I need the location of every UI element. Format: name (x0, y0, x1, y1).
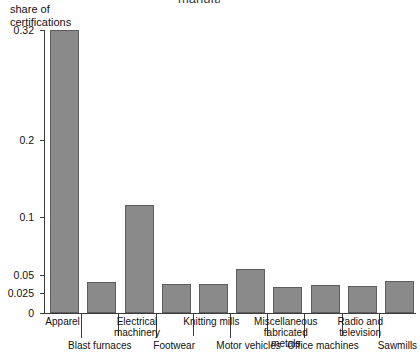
x-axis-label: Electrical machinery (102, 316, 173, 338)
bar (385, 281, 414, 313)
cropped-title-text: manufacturing (178, 0, 220, 6)
x-axis-label: Motor vehicles (208, 340, 290, 351)
x-axis-label: Apparel (27, 316, 98, 327)
cropped-title-artifact: manufacturing (178, 0, 220, 7)
y-tick-label: 0.2 (19, 134, 34, 146)
bar (199, 284, 228, 313)
y-axis-line (44, 30, 45, 314)
x-axis-label-group: ApparelElectrical machineryKnitting mill… (44, 314, 416, 358)
bar (125, 205, 154, 313)
x-axis-label: Blast furnaces (59, 340, 141, 351)
x-axis-label: Footwear (133, 340, 215, 351)
bar (50, 30, 79, 313)
bar-chart-figure: manufacturing share of certifications 00… (0, 0, 420, 358)
bar (348, 286, 377, 313)
bar (87, 282, 116, 313)
x-axis-label: Office machines (282, 340, 364, 351)
x-axis-label: Knitting mills (176, 316, 247, 327)
bar (273, 287, 302, 313)
x-axis-label: Radio and television (325, 316, 396, 338)
y-tick-label: 0.1 (19, 211, 34, 223)
bar (162, 284, 191, 313)
plot-area: 00.0250.050.10.20.32 (44, 30, 416, 314)
x-axis-label: Sawmills (356, 340, 420, 351)
bar (236, 269, 265, 313)
bar (311, 285, 340, 313)
y-tick-label: 0.32 (14, 24, 34, 36)
y-tick-label: 0.05 (14, 269, 34, 281)
y-tick-label: 0.025 (8, 287, 34, 299)
